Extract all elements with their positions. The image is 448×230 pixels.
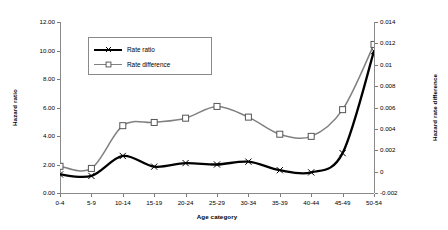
legend: Rate ratio Rate difference bbox=[88, 37, 212, 75]
right-axis-tick bbox=[375, 65, 378, 66]
left-axis-tick-label: 6.00 bbox=[21, 104, 55, 111]
x-axis-tick bbox=[60, 194, 61, 197]
legend-item-rate-ratio: Rate ratio bbox=[94, 42, 206, 57]
right-axis-tick-label: -0.002 bbox=[380, 189, 414, 196]
data-point-marker bbox=[245, 114, 251, 120]
right-axis-tick-label: 0.006 bbox=[380, 104, 414, 111]
right-axis-tick bbox=[375, 129, 378, 130]
open-square-marker-icon bbox=[104, 60, 113, 69]
x-axis-tick bbox=[217, 194, 218, 197]
left-axis-tick-label: 10.00 bbox=[21, 47, 55, 54]
right-axis-tick-label: 0.004 bbox=[380, 125, 414, 132]
data-point-marker bbox=[277, 131, 283, 137]
right-axis-tick-label: 0.014 bbox=[380, 18, 414, 25]
left-axis-tick-label: 0.00 bbox=[21, 189, 55, 196]
right-axis-tick-label: 0.008 bbox=[380, 82, 414, 89]
data-point-marker bbox=[183, 115, 189, 121]
data-point-marker bbox=[371, 41, 374, 47]
data-point-marker bbox=[214, 103, 220, 109]
x-axis-tick bbox=[248, 194, 249, 197]
right-axis-tick bbox=[375, 108, 378, 109]
right-axis-tick-label: 0.002 bbox=[380, 146, 414, 153]
x-axis-tick bbox=[374, 194, 375, 197]
left-axis-tick-label: 8.00 bbox=[21, 75, 55, 82]
data-point-marker bbox=[88, 165, 94, 171]
right-axis-tick bbox=[375, 172, 378, 173]
left-axis-tick-label: 2.00 bbox=[21, 161, 55, 168]
right-axis-tick bbox=[375, 86, 378, 87]
x-axis-tick bbox=[280, 194, 281, 197]
right-axis-tick bbox=[375, 150, 378, 151]
data-point-marker bbox=[120, 123, 126, 129]
legend-label-rate-difference: Rate difference bbox=[127, 61, 170, 68]
right-axis-tick-label: 0.01 bbox=[380, 61, 414, 68]
x-axis-tick bbox=[123, 194, 124, 197]
hazard-ratio-chart: Hazard ratio Hazard rate difference Age … bbox=[0, 0, 448, 230]
x-axis-tick bbox=[343, 194, 344, 197]
right-axis-tick-label: 0 bbox=[380, 168, 414, 175]
cross-marker-icon bbox=[104, 45, 113, 54]
data-point-marker bbox=[151, 119, 157, 125]
legend-item-rate-difference: Rate difference bbox=[94, 57, 206, 72]
right-axis-tick-label: 0.012 bbox=[380, 39, 414, 46]
data-point-marker bbox=[60, 163, 63, 169]
left-axis-tick-label: 4.00 bbox=[21, 132, 55, 139]
data-point-marker bbox=[308, 133, 314, 139]
x-axis-tick-label: 50-54 bbox=[354, 199, 394, 206]
x-axis-tick bbox=[186, 194, 187, 197]
legend-label-rate-ratio: Rate ratio bbox=[127, 46, 155, 53]
right-axis-tick bbox=[375, 43, 378, 44]
rate-ratio-swatch bbox=[94, 44, 122, 55]
rate-difference-swatch bbox=[94, 59, 122, 70]
x-axis-tick bbox=[91, 194, 92, 197]
right-y-axis-title: Hazard rate difference bbox=[431, 58, 438, 158]
right-axis-tick bbox=[375, 22, 378, 23]
left-axis-tick-label: 12.00 bbox=[21, 18, 55, 25]
x-axis-tick bbox=[311, 194, 312, 197]
data-point-marker bbox=[340, 107, 346, 113]
x-axis-tick bbox=[154, 194, 155, 197]
x-axis-title: Age category bbox=[60, 213, 374, 220]
left-y-axis-title: Hazard ratio bbox=[11, 58, 18, 158]
right-axis-tick bbox=[375, 193, 378, 194]
